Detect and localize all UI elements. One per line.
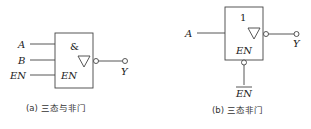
- input-a-label: A: [17, 39, 25, 50]
- output-y-label: Y: [293, 38, 301, 49]
- enable-inversion-bubble-icon: [242, 60, 247, 65]
- enable-input-label: EN: [235, 88, 253, 99]
- caption-b: (b) 三态非门: [212, 105, 263, 115]
- and-symbol: &: [70, 41, 79, 52]
- output-y-label: Y: [121, 66, 129, 77]
- buffer-symbol: 1: [240, 12, 246, 23]
- inversion-bubble-icon: [264, 32, 269, 37]
- input-a-label: A: [184, 28, 192, 39]
- input-b-label: B: [17, 55, 25, 66]
- enable-pin-label: EN: [60, 70, 78, 81]
- output-terminal-icon: [294, 32, 299, 37]
- caption-a: (a) 三态与非门: [26, 103, 86, 113]
- input-en-label: EN: [9, 70, 27, 81]
- inversion-bubble-icon: [94, 59, 99, 64]
- output-terminal-icon: [123, 59, 128, 64]
- tristate-not-gate-diagram: A 1 EN Y EN (b) 三态非门: [184, 7, 301, 115]
- tristate-nand-gate-diagram: A B EN & EN Y (a) 三态与非门: [9, 33, 129, 113]
- diagram-canvas: A B EN & EN Y (a) 三态与非门 A 1 EN Y EN (b) …: [0, 0, 311, 129]
- enable-pin-label: EN: [235, 45, 253, 56]
